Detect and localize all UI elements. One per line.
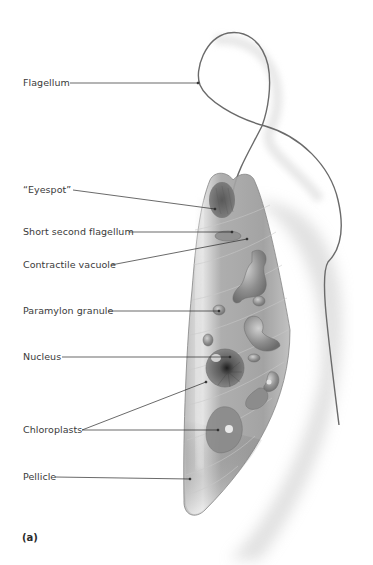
label-pellicle: Pellicle bbox=[23, 471, 56, 483]
label-paramylon-granule: Paramylon granule bbox=[23, 305, 113, 317]
nucleus-icon bbox=[206, 349, 244, 387]
contractile-vacuole-icon bbox=[215, 231, 241, 241]
euglena-body bbox=[184, 173, 290, 515]
label-short-second-flagellum: Short second flagellum bbox=[23, 226, 134, 238]
label-flagellum: Flagellum bbox=[23, 77, 70, 89]
label-contractile-vacuole: Contractile vacuole bbox=[23, 259, 116, 271]
panel-label: (a) bbox=[22, 532, 38, 543]
label-nucleus: Nucleus bbox=[23, 351, 61, 363]
label-eyespot: “Eyespot” bbox=[23, 184, 71, 196]
eyespot-icon bbox=[209, 182, 235, 218]
label-chloroplasts: Chloroplasts bbox=[23, 424, 82, 436]
